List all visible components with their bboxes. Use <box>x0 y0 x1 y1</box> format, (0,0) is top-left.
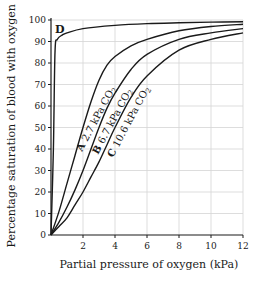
y-tick-label: 90 <box>35 37 47 47</box>
x-tick-label: 4 <box>112 241 118 251</box>
y-tick-label: 70 <box>35 80 47 90</box>
tick-labels: 010203040506070809010024681012 <box>29 15 249 251</box>
y-tick-label: 100 <box>29 15 46 25</box>
y-tick-label: 60 <box>35 101 47 111</box>
y-tick-label: 50 <box>35 123 47 133</box>
x-tick-label: 6 <box>144 241 150 251</box>
x-tick-label: 2 <box>80 241 86 251</box>
grid-lines <box>51 20 243 235</box>
y-tick-label: 30 <box>35 166 47 176</box>
y-axis-label: Percentage saturation of blood with oxyg… <box>5 18 18 248</box>
curve-labels: DA 2.7 kPa CO2B 6.7 kPa CO2C 10.6 kPa CO… <box>55 23 153 160</box>
x-tick-label: 8 <box>176 241 182 251</box>
y-tick-label: 40 <box>35 144 47 154</box>
y-tick-label: 10 <box>35 209 47 219</box>
oxygen-dissociation-chart: 010203040506070809010024681012 DA 2.7 kP… <box>0 0 255 281</box>
axes <box>48 18 243 238</box>
x-tick-label: 10 <box>205 241 217 251</box>
y-tick-label: 20 <box>35 187 47 197</box>
y-tick-label: 0 <box>40 230 46 240</box>
y-tick-label: 80 <box>35 58 47 68</box>
curve-label-d: D <box>55 23 65 36</box>
x-tick-label: 12 <box>237 241 248 251</box>
x-axis-label: Partial pressure of oxygen (kPa) <box>51 258 247 271</box>
